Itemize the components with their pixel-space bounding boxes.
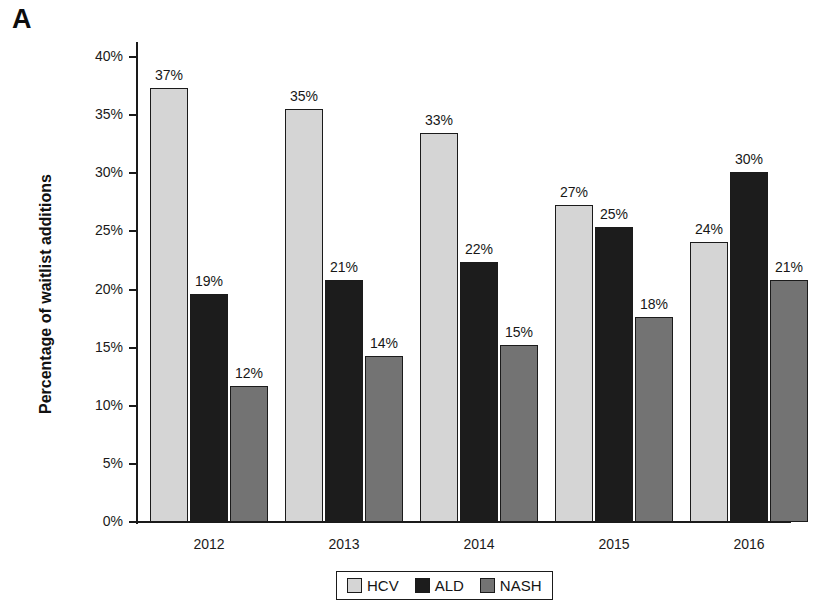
bar-value-label: 27% bbox=[560, 184, 588, 200]
bar-value-label: 22% bbox=[465, 241, 493, 257]
bar-value-label: 25% bbox=[600, 206, 628, 222]
bar-value-label: 12% bbox=[235, 365, 263, 381]
y-tick-label: 15% bbox=[95, 339, 123, 355]
y-tick-mark bbox=[129, 347, 138, 349]
y-tick-mark bbox=[129, 114, 138, 116]
x-tick-label-2016: 2016 bbox=[733, 536, 764, 552]
bar-ald-2013 bbox=[325, 280, 363, 522]
bar-value-label: 18% bbox=[640, 296, 668, 312]
legend-swatch-icon bbox=[347, 578, 362, 593]
legend-swatch-icon bbox=[480, 578, 495, 593]
figure-panel-a: A Percentage of waitlist additions 0%5%1… bbox=[0, 0, 839, 614]
bar-hcv-2012 bbox=[150, 88, 188, 522]
bar-nash-2014 bbox=[500, 345, 538, 522]
legend-item-hcv[interactable]: HCV bbox=[347, 577, 399, 594]
bar-hcv-2014 bbox=[420, 133, 458, 522]
legend-item-nash[interactable]: NASH bbox=[480, 577, 542, 594]
y-tick-mark bbox=[129, 463, 138, 465]
bar-hcv-2016 bbox=[690, 242, 728, 522]
bar-hcv-2013 bbox=[285, 109, 323, 522]
y-tick-label: 25% bbox=[95, 222, 123, 238]
legend-label: HCV bbox=[367, 577, 399, 594]
y-axis-title: Percentage of waitlist additions bbox=[37, 124, 55, 464]
x-tick-label-2012: 2012 bbox=[193, 536, 224, 552]
y-tick-label: 35% bbox=[95, 106, 123, 122]
legend-label: ALD bbox=[435, 577, 464, 594]
bar-value-label: 37% bbox=[155, 67, 183, 83]
y-tick-label: 10% bbox=[95, 397, 123, 413]
bar-nash-2016 bbox=[770, 280, 808, 522]
bar-value-label: 33% bbox=[425, 112, 453, 128]
bar-value-label: 15% bbox=[505, 324, 533, 340]
y-tick-label: 20% bbox=[95, 281, 123, 297]
bar-value-label: 24% bbox=[695, 221, 723, 237]
y-tick-mark bbox=[129, 56, 138, 58]
bar-value-label: 19% bbox=[195, 273, 223, 289]
bar-value-label: 35% bbox=[290, 88, 318, 104]
x-tick-label-2013: 2013 bbox=[328, 536, 359, 552]
bar-hcv-2015 bbox=[555, 205, 593, 522]
legend-item-ald[interactable]: ALD bbox=[415, 577, 464, 594]
bar-value-label: 21% bbox=[775, 259, 803, 275]
bar-value-label: 30% bbox=[735, 151, 763, 167]
bar-nash-2012 bbox=[230, 386, 268, 522]
legend-label: NASH bbox=[500, 577, 542, 594]
y-tick-label: 30% bbox=[95, 164, 123, 180]
y-tick-mark bbox=[129, 289, 138, 291]
plot-area: 37%19%12%35%21%14%33%22%15%27%25%18%24%3… bbox=[138, 57, 790, 522]
y-tick-label: 5% bbox=[103, 455, 123, 471]
x-tick-label-2015: 2015 bbox=[598, 536, 629, 552]
panel-letter: A bbox=[12, 6, 32, 33]
bar-nash-2015 bbox=[635, 317, 673, 522]
bar-ald-2016 bbox=[730, 172, 768, 522]
bar-value-label: 21% bbox=[330, 259, 358, 275]
bar-nash-2013 bbox=[365, 356, 403, 522]
bar-ald-2015 bbox=[595, 227, 633, 522]
y-tick-mark bbox=[129, 230, 138, 232]
chart-legend: HCVALDNASH bbox=[336, 571, 553, 600]
y-tick-mark bbox=[129, 521, 138, 523]
y-tick-mark bbox=[129, 172, 138, 174]
bar-ald-2014 bbox=[460, 262, 498, 522]
y-tick-label: 40% bbox=[95, 48, 123, 64]
y-tick-mark bbox=[129, 405, 138, 407]
bar-value-label: 14% bbox=[370, 335, 398, 351]
bar-ald-2012 bbox=[190, 294, 228, 522]
x-tick-label-2014: 2014 bbox=[463, 536, 494, 552]
y-tick-label: 0% bbox=[103, 513, 123, 529]
legend-swatch-icon bbox=[415, 578, 430, 593]
